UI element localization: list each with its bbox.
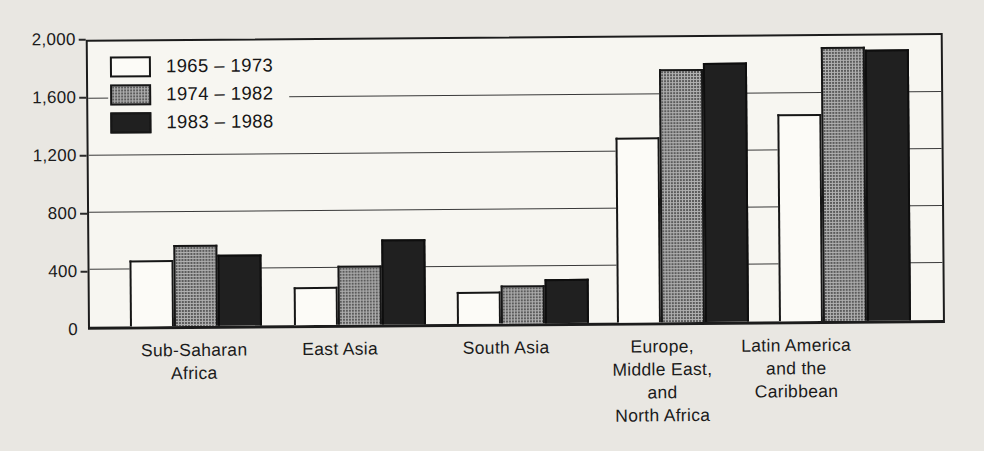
bar-0-0 (129, 261, 174, 327)
bar-2-0 (457, 291, 501, 323)
legend: 1965 – 1973 1974 – 1982 1983 – 1988 (108, 52, 290, 139)
y-axis-label-0: 0 (6, 320, 78, 341)
bar-group-1 (292, 39, 426, 325)
x-axis-label-line: Caribbean (686, 379, 906, 404)
y-axis-label-1600: 1,600 (4, 88, 76, 109)
scanned-figure: 1965 – 1973 1974 – 1982 1983 – 1988 0400… (0, 0, 984, 451)
y-axis-label-400: 400 (5, 262, 77, 283)
x-axis-label-line: North Africa (553, 403, 773, 428)
bar-group-3 (615, 37, 749, 323)
bar-3-0 (616, 137, 661, 323)
bar-1-1 (338, 265, 382, 324)
y-axis-tick-400 (81, 271, 88, 273)
bar-4-1 (821, 47, 867, 321)
bar-group-4 (777, 35, 911, 321)
y-axis-label-800: 800 (5, 204, 77, 225)
bar-3-2 (703, 62, 749, 322)
legend-label: 1974 – 1982 (166, 82, 273, 105)
y-axis-tick-800 (80, 213, 87, 215)
legend-swatch-1983-1988 (110, 112, 151, 133)
x-axis-label-line: Africa (84, 361, 304, 386)
bar-2-1 (501, 285, 545, 324)
legend-swatch-1965-1973 (110, 56, 151, 77)
legend-swatch-1974-1982 (110, 84, 151, 105)
bar-4-0 (777, 114, 823, 321)
bar-1-2 (381, 239, 426, 325)
legend-row: 1965 – 1973 (110, 54, 273, 77)
bar-2-2 (545, 279, 589, 324)
y-axis-label-1200: 1,200 (5, 146, 77, 167)
legend-row: 1974 – 1982 (110, 82, 273, 105)
bar-group-2 (455, 38, 589, 324)
legend-row: 1983 – 1988 (110, 110, 273, 133)
y-axis-label-2000: 2,000 (4, 30, 76, 51)
x-axis-label-line: and the (686, 356, 906, 381)
bar-0-2 (217, 254, 262, 326)
bar-0-1 (173, 245, 218, 327)
y-axis-tick-2000 (79, 39, 86, 41)
bar-1-0 (294, 286, 338, 325)
plot-area: 1965 – 1973 1974 – 1982 1983 – 1988 (86, 33, 945, 330)
bar-3-1 (659, 69, 705, 322)
y-axis-tick-1600 (79, 97, 86, 99)
x-axis-label-4: Latin Americaand theCaribbean (686, 333, 907, 404)
legend-label: 1983 – 1988 (166, 110, 273, 133)
y-axis-tick-1200 (80, 155, 87, 157)
legend-label: 1965 – 1973 (166, 54, 273, 77)
bar-4-2 (865, 50, 911, 321)
x-axis-label-line: Latin America (686, 333, 906, 358)
